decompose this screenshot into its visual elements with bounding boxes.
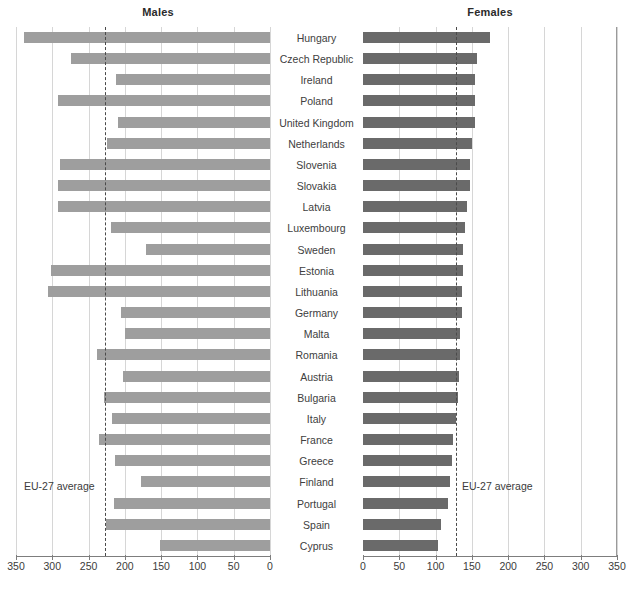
bar-male <box>71 53 270 64</box>
category-label: Cyprus <box>272 535 361 557</box>
bar-row <box>363 493 617 515</box>
bar-male <box>97 349 270 360</box>
axis-tick-label: 50 <box>214 560 254 572</box>
gridline <box>270 27 271 556</box>
category-label: Luxembourg <box>272 217 361 239</box>
category-label: Italy <box>272 408 361 430</box>
bar-row <box>16 260 270 282</box>
bar-row <box>363 535 617 557</box>
bar-row <box>16 408 270 430</box>
axis-tick-label: 300 <box>32 560 72 572</box>
bar-female <box>363 392 458 403</box>
bar-row <box>16 90 270 112</box>
bar-row <box>363 196 617 218</box>
bar-row <box>16 154 270 176</box>
bar-male <box>123 371 270 382</box>
bar-male <box>125 328 270 339</box>
category-labels: HungaryCzech RepublicIrelandPolandUnited… <box>272 27 361 556</box>
bar-row <box>363 408 617 430</box>
panel-title-females: Females <box>420 6 560 18</box>
category-label: Latvia <box>272 196 361 218</box>
bar-row <box>363 154 617 176</box>
bar-female <box>363 286 462 297</box>
bar-row <box>363 387 617 409</box>
bar-female <box>363 371 459 382</box>
category-label: Ireland <box>272 69 361 91</box>
bar-female <box>363 95 475 106</box>
butterfly-bar-chart: Males Females HungaryCzech RepublicIrela… <box>0 0 637 590</box>
bar-female <box>363 32 490 43</box>
bar-male <box>112 413 270 424</box>
bar-row <box>16 112 270 134</box>
bar-male <box>58 180 270 191</box>
bar-row <box>363 281 617 303</box>
bar-male <box>118 117 270 128</box>
category-label: Slovakia <box>272 175 361 197</box>
bar-female <box>363 328 460 339</box>
bar-male <box>24 32 270 43</box>
bar-row <box>363 112 617 134</box>
axis-tick-label: 250 <box>524 560 564 572</box>
category-label: Sweden <box>272 239 361 261</box>
category-label: Malta <box>272 323 361 345</box>
bar-row <box>363 260 617 282</box>
bar-male <box>104 392 270 403</box>
bar-row <box>16 217 270 239</box>
plot-area-females <box>363 27 617 556</box>
axis-tick-label: 100 <box>177 560 217 572</box>
category-label: Germany <box>272 302 361 324</box>
bar-row <box>16 175 270 197</box>
category-label: Spain <box>272 514 361 536</box>
bar-female <box>363 498 448 509</box>
bar-male <box>146 244 270 255</box>
bar-female <box>363 265 463 276</box>
bar-row <box>363 48 617 70</box>
category-label: Portugal <box>272 493 361 515</box>
bar-female <box>363 201 467 212</box>
category-label: Poland <box>272 90 361 112</box>
average-reference-line <box>105 27 106 556</box>
category-label: Hungary <box>272 27 361 49</box>
bar-row <box>363 429 617 451</box>
category-label: Lithuania <box>272 281 361 303</box>
bar-female <box>363 349 460 360</box>
axis-tick-label: 0 <box>250 560 290 572</box>
bar-row <box>363 217 617 239</box>
bar-row <box>16 196 270 218</box>
bar-female <box>363 74 475 85</box>
category-label: Greece <box>272 450 361 472</box>
plot-area-males <box>16 27 270 556</box>
axis-tick-label: 350 <box>597 560 637 572</box>
axis-tick-label: 200 <box>105 560 145 572</box>
bar-male <box>160 540 270 551</box>
bar-row <box>16 493 270 515</box>
bar-female <box>363 434 453 445</box>
bar-row <box>363 239 617 261</box>
axis-tick-label: 300 <box>561 560 601 572</box>
bar-female <box>363 53 477 64</box>
bar-male <box>51 265 270 276</box>
bar-male <box>60 159 270 170</box>
bar-male <box>107 138 270 149</box>
bar-row <box>16 69 270 91</box>
bar-row <box>16 48 270 70</box>
axis-tick-label: 150 <box>452 560 492 572</box>
axis-tick-label: 50 <box>379 560 419 572</box>
bar-row <box>16 302 270 324</box>
bar-female <box>363 159 470 170</box>
bar-row <box>363 90 617 112</box>
bar-row <box>16 133 270 155</box>
axis-tick-label: 100 <box>416 560 456 572</box>
category-label: Austria <box>272 366 361 388</box>
bar-male <box>121 307 270 318</box>
bar-male <box>106 519 270 530</box>
bar-female <box>363 413 456 424</box>
axis-tick-label: 150 <box>141 560 181 572</box>
bar-row <box>16 535 270 557</box>
bar-row <box>363 302 617 324</box>
category-label: Finland <box>272 471 361 493</box>
bar-row <box>16 281 270 303</box>
bar-female <box>363 180 470 191</box>
bar-female <box>363 222 465 233</box>
bar-row <box>363 69 617 91</box>
